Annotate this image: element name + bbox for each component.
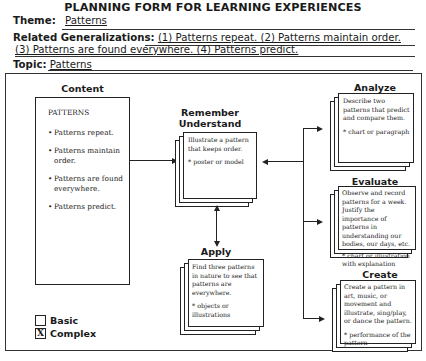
content-heading: Content xyxy=(35,83,130,94)
arrow-right-icon xyxy=(319,316,325,322)
content-list: Patterns repeat. Patterns maintain order… xyxy=(48,128,128,220)
generalizations-line2-wrap: (3) Patterns are found everywhere. (4) P… xyxy=(15,44,298,55)
generalizations-line2: (3) Patterns are found everywhere. (4) P… xyxy=(15,44,298,55)
remember-heading: Remember Understand xyxy=(170,107,250,129)
complex-checkbox[interactable]: X xyxy=(35,328,46,339)
complex-label: Complex xyxy=(50,328,96,339)
connector-trunk-evaluate xyxy=(303,221,318,222)
content-item: Patterns repeat. xyxy=(48,128,128,138)
theme-label: Theme: xyxy=(13,15,56,26)
arrow-right-icon xyxy=(317,126,323,132)
connector-trunk-vertical xyxy=(303,128,304,318)
evaluate-product: * chart or illustration with explanation xyxy=(342,252,412,269)
theme-underline xyxy=(62,29,415,30)
connector-content-remember xyxy=(129,160,174,161)
basic-label: Basic xyxy=(50,315,78,326)
create-task: Create a pattern in art, music, or movem… xyxy=(344,283,412,326)
apply-task: Find three patterns in nature to see tha… xyxy=(192,263,260,297)
content-box: PATTERNS Patterns repeat. Patterns maint… xyxy=(35,97,130,285)
connector-remember-apply xyxy=(216,209,217,245)
topic-underline xyxy=(48,70,413,71)
generalizations-field: Related Generalizations: (1) Patterns re… xyxy=(13,32,401,43)
remember-product: * poster or model xyxy=(188,158,254,167)
create-product: * performance of the pattern xyxy=(344,331,412,348)
arrow-right-icon xyxy=(317,219,323,225)
basic-option[interactable]: Basic xyxy=(35,315,78,326)
basic-checkbox[interactable] xyxy=(35,315,46,326)
arrow-left-icon xyxy=(262,159,268,165)
complex-option[interactable]: X Complex xyxy=(35,328,96,339)
evaluate-task: Observe and record patterns for a week. … xyxy=(342,189,412,249)
content-item: Patterns are found everywhere. xyxy=(48,174,128,194)
content-item: Patterns predict. xyxy=(48,202,128,212)
theme-field: Theme: Patterns xyxy=(13,15,107,26)
connector-trunk-create xyxy=(303,318,320,319)
connector-trunk-remember xyxy=(268,161,303,162)
analyze-task: Describe two patterns that predict and c… xyxy=(343,97,410,123)
topic-value: Patterns xyxy=(50,59,92,70)
generalizations-underline-2 xyxy=(15,56,415,57)
theme-value: Patterns xyxy=(65,15,107,26)
topic-label: Topic: xyxy=(13,59,47,70)
apply-product: * objects or illustrations xyxy=(192,302,260,319)
remember-task: Illustrate a pattern that keeps order. xyxy=(188,136,254,153)
form-title: PLANNING FORM FOR LEARNING EXPERIENCES xyxy=(0,1,426,14)
generalizations-line1: (1) Patterns repeat. (2) Patterns mainta… xyxy=(158,32,401,43)
topic-field: Topic: Patterns xyxy=(13,59,92,70)
remember-heading-line1: Remember xyxy=(170,107,250,118)
analyze-heading: Analyze xyxy=(340,82,410,93)
remember-heading-line2: Understand xyxy=(170,118,250,129)
analyze-product: * chart or paragraph xyxy=(343,128,410,137)
content-title: PATTERNS xyxy=(48,108,89,118)
connector-trunk-analyze xyxy=(303,128,318,129)
generalizations-label: Related Generalizations: xyxy=(13,32,155,43)
arrow-up-icon xyxy=(214,205,220,211)
create-heading: Create xyxy=(350,269,410,280)
apply-heading: Apply xyxy=(186,246,246,257)
content-item: Patterns maintain order. xyxy=(48,146,128,166)
